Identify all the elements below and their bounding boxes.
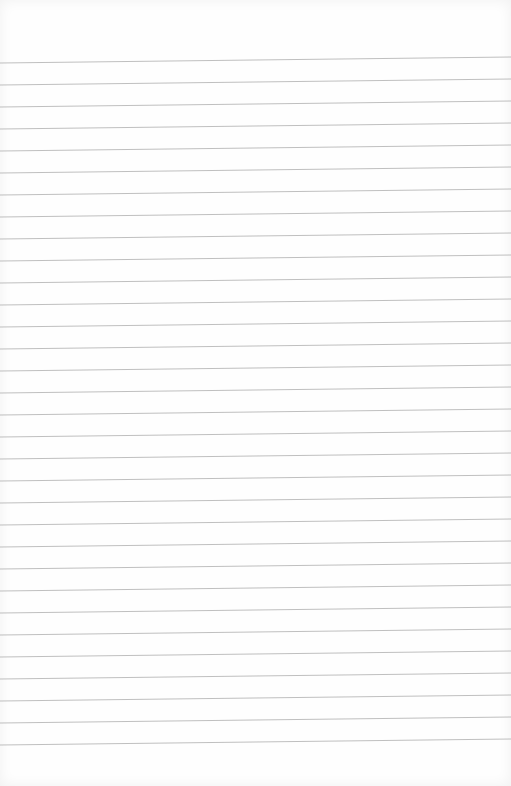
lined-paper-sheet — [0, 0, 511, 786]
ruled-line — [0, 739, 511, 745]
ruled-line — [0, 541, 511, 547]
ruled-line — [0, 673, 511, 679]
ruled-line — [0, 167, 511, 173]
ruled-line — [0, 475, 511, 481]
ruled-line — [0, 211, 511, 217]
ruled-line — [0, 431, 511, 437]
ruled-line — [0, 629, 511, 635]
ruled-line — [0, 233, 511, 239]
ruled-line — [0, 695, 511, 701]
ruled-line — [0, 387, 511, 393]
ruled-lines — [0, 0, 511, 786]
ruled-line — [0, 717, 511, 723]
ruled-line — [0, 409, 511, 415]
ruled-line — [0, 365, 511, 371]
ruled-line — [0, 57, 511, 63]
ruled-line — [0, 321, 511, 327]
ruled-line — [0, 651, 511, 657]
ruled-line — [0, 607, 511, 613]
ruled-line — [0, 299, 511, 305]
ruled-line — [0, 277, 511, 283]
ruled-line — [0, 343, 511, 349]
ruled-line — [0, 255, 511, 261]
ruled-line — [0, 123, 511, 129]
ruled-line — [0, 145, 511, 151]
ruled-line — [0, 563, 511, 569]
ruled-line — [0, 497, 511, 503]
ruled-line — [0, 101, 511, 107]
ruled-line — [0, 453, 511, 459]
ruled-line — [0, 585, 511, 591]
ruled-line — [0, 79, 511, 85]
ruled-line — [0, 519, 511, 525]
ruled-line — [0, 189, 511, 195]
